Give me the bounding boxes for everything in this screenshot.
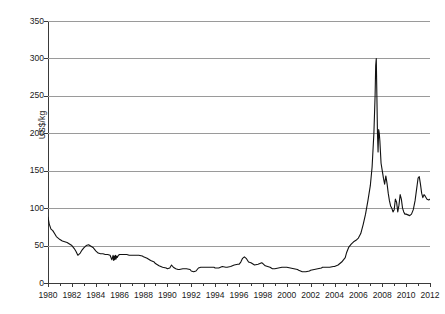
x-tick-mark xyxy=(96,283,97,287)
y-tick-label: 100 xyxy=(18,204,44,213)
x-minor-tick-mark xyxy=(370,283,371,286)
y-tick-label: 300 xyxy=(18,54,44,63)
x-tick-mark xyxy=(167,283,168,287)
x-tick-mark xyxy=(406,283,407,287)
series-line-price xyxy=(48,21,430,283)
price-line-chart: US$/kg 050100150200250300350198019821984… xyxy=(0,0,445,314)
y-tick-label: 250 xyxy=(18,91,44,100)
x-tick-mark xyxy=(335,283,336,287)
x-tick-mark xyxy=(239,283,240,287)
x-tick-mark xyxy=(287,283,288,287)
x-minor-tick-mark xyxy=(346,283,347,286)
x-tick-mark xyxy=(191,283,192,287)
x-minor-tick-mark xyxy=(299,283,300,286)
x-tick-mark xyxy=(144,283,145,287)
x-minor-tick-mark xyxy=(84,283,85,286)
x-tick-mark xyxy=(311,283,312,287)
x-tick-mark xyxy=(48,283,49,287)
x-minor-tick-mark xyxy=(108,283,109,286)
y-tick-label: 150 xyxy=(18,166,44,175)
x-tick-mark xyxy=(120,283,121,287)
x-minor-tick-mark xyxy=(155,283,156,286)
x-minor-tick-mark xyxy=(203,283,204,286)
x-tick-mark xyxy=(382,283,383,287)
x-tick-mark xyxy=(72,283,73,287)
x-tick-label: 2012 xyxy=(413,290,445,300)
x-minor-tick-mark xyxy=(323,283,324,286)
y-tick-label: 50 xyxy=(18,241,44,250)
x-minor-tick-mark xyxy=(60,283,61,286)
y-axis-title: US$/kg xyxy=(36,93,48,157)
x-tick-mark xyxy=(215,283,216,287)
x-minor-tick-mark xyxy=(227,283,228,286)
x-minor-tick-mark xyxy=(394,283,395,286)
x-minor-tick-mark xyxy=(132,283,133,286)
x-minor-tick-mark xyxy=(179,283,180,286)
y-tick-label: 350 xyxy=(18,17,44,26)
x-minor-tick-mark xyxy=(275,283,276,286)
x-minor-tick-mark xyxy=(251,283,252,286)
x-tick-mark xyxy=(430,283,431,287)
y-tick-label: 200 xyxy=(18,129,44,138)
y-tick-label: 0 xyxy=(18,279,44,288)
x-tick-mark xyxy=(358,283,359,287)
x-tick-mark xyxy=(263,283,264,287)
x-minor-tick-mark xyxy=(418,283,419,286)
